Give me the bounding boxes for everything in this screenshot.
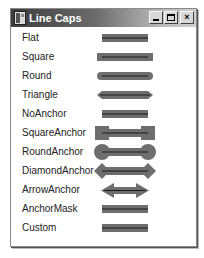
cap-label: Custom (22, 222, 56, 234)
cap-label: RoundAnchor (22, 146, 83, 158)
line-cap-row-round: Round (11, 67, 196, 86)
line-cap-row-diamondanchor: DiamondAnchor (11, 162, 196, 181)
round-cap-line-icon (86, 67, 166, 86)
flat-cap-line-icon (86, 29, 166, 48)
line-cap-row-square: Square (11, 48, 196, 67)
cap-label: Round (22, 70, 51, 82)
diamondanchor-cap-line-icon (86, 162, 166, 181)
maximize-button[interactable] (164, 11, 178, 24)
cap-label: Flat (22, 32, 39, 44)
title-bar[interactable]: Line Caps × (11, 9, 196, 27)
roundanchor-cap-line-icon (86, 143, 166, 162)
minimize-icon (153, 19, 159, 21)
cap-label: Triangle (22, 89, 58, 101)
window-title: Line Caps (29, 11, 82, 25)
close-button[interactable]: × (180, 11, 194, 24)
cap-label: AnchorMask (22, 203, 78, 215)
line-caps-window: Line Caps × Flat Square Round (10, 8, 197, 247)
square-cap-line-icon (86, 48, 166, 67)
line-cap-row-squareanchor: SquareAnchor (11, 124, 196, 143)
cap-label: DiamondAnchor (22, 165, 94, 177)
minimize-button[interactable] (149, 11, 163, 24)
app-window-icon[interactable] (14, 11, 26, 25)
squareanchor-cap-line-icon (86, 124, 166, 143)
arrowanchor-cap-line-icon (86, 181, 166, 200)
maximize-icon (167, 14, 175, 21)
anchormask-cap-line-icon (86, 200, 166, 219)
line-cap-row-noanchor: NoAnchor (11, 105, 196, 124)
triangle-cap-line-icon (86, 86, 166, 105)
cap-label: Square (22, 51, 54, 63)
cap-label: NoAnchor (22, 108, 66, 120)
line-cap-row-arrowanchor: ArrowAnchor (11, 181, 196, 200)
line-cap-row-custom: Custom (11, 219, 196, 238)
cap-label: SquareAnchor (22, 127, 86, 139)
close-icon: × (184, 12, 189, 22)
client-area: Flat Square Round Triangle (11, 27, 196, 246)
line-cap-row-flat: Flat (11, 29, 196, 48)
line-cap-row-anchormask: AnchorMask (11, 200, 196, 219)
line-cap-row-triangle: Triangle (11, 86, 196, 105)
noanchor-cap-line-icon (86, 105, 166, 124)
line-cap-row-roundanchor: RoundAnchor (11, 143, 196, 162)
cap-label: ArrowAnchor (22, 184, 80, 196)
custom-cap-line-icon (86, 219, 166, 238)
